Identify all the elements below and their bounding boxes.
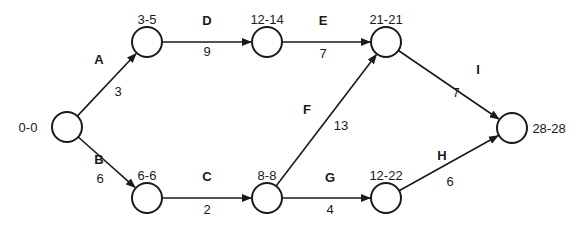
event-node-n2 xyxy=(132,183,162,213)
activity-name-b: B xyxy=(94,152,103,167)
activity-name-e: E xyxy=(319,13,328,28)
activity-name-a: A xyxy=(94,52,104,67)
event-time-label: 28-28 xyxy=(532,121,565,136)
event-node-n7 xyxy=(497,113,527,143)
event-time-label: 3-5 xyxy=(138,12,157,27)
activity-duration-a: 3 xyxy=(114,84,121,99)
activity-duration-d: 9 xyxy=(203,44,210,59)
network-diagram: A3B6D9C2E7F13G4I7H60-03-56-612-148-821-2… xyxy=(0,0,586,235)
activity-name-g: G xyxy=(325,170,335,185)
event-node-n1 xyxy=(132,27,162,57)
event-time-label: 21-21 xyxy=(369,12,402,27)
activity-arrow-b xyxy=(78,137,135,187)
activity-duration-i: 7 xyxy=(452,85,459,100)
event-nodes xyxy=(52,27,527,213)
activity-duration-c: 2 xyxy=(203,202,210,217)
event-node-n4 xyxy=(252,183,282,213)
activity-duration-b: 6 xyxy=(96,171,103,186)
activity-name-h: H xyxy=(437,148,446,163)
activity-name-i: I xyxy=(476,62,480,77)
event-node-n3 xyxy=(252,27,282,57)
event-node-n6 xyxy=(371,183,401,213)
activity-arrow-a xyxy=(77,54,136,116)
activity-name-f: F xyxy=(303,102,311,117)
activity-duration-g: 4 xyxy=(326,202,333,217)
event-time-label: 8-8 xyxy=(258,168,277,183)
activity-duration-e: 7 xyxy=(319,46,326,61)
activity-duration-f: 13 xyxy=(334,118,348,133)
event-time-label: 12-14 xyxy=(250,12,283,27)
event-time-label: 0-0 xyxy=(19,120,38,135)
activity-arrow-f xyxy=(276,55,376,186)
activity-name-c: C xyxy=(202,169,212,184)
event-node-n0 xyxy=(52,112,82,142)
activity-arrow-i xyxy=(398,51,498,120)
event-time-label: 6-6 xyxy=(138,168,157,183)
event-time-label: 12-22 xyxy=(369,168,402,183)
activity-duration-h: 6 xyxy=(446,174,453,189)
event-node-n5 xyxy=(371,27,401,57)
activity-name-d: D xyxy=(202,13,211,28)
